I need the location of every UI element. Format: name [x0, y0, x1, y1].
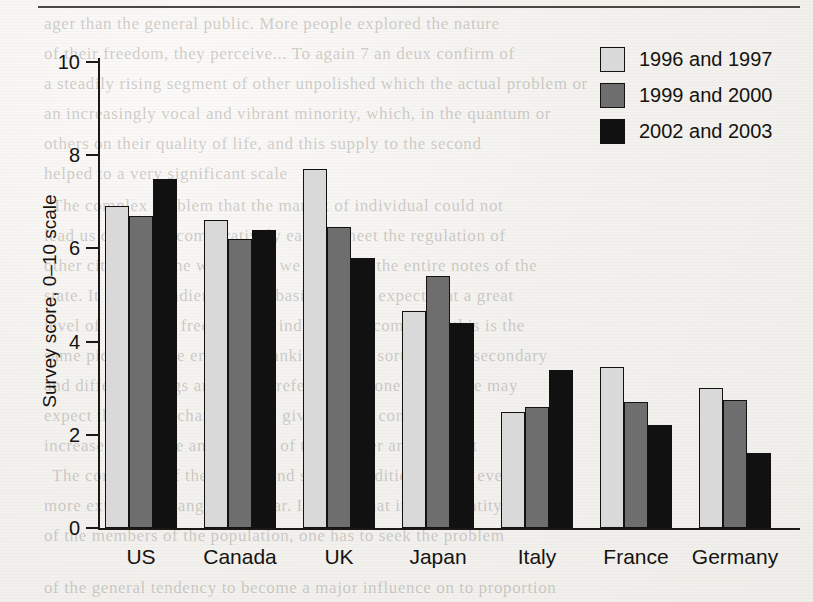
bar [303, 169, 327, 528]
bar [402, 311, 426, 528]
bar [501, 412, 525, 529]
legend-color-swatch [600, 119, 625, 144]
bar [105, 206, 129, 528]
bar [549, 370, 573, 528]
y-tick-mark [86, 341, 99, 343]
chart-legend: 1996 and 19971999 and 20002002 and 2003 [600, 44, 772, 152]
legend-item: 2002 and 2003 [600, 116, 772, 146]
y-axis-line [98, 58, 100, 530]
bar [624, 402, 648, 528]
y-tick-label: 2 [69, 425, 80, 445]
bar [648, 425, 672, 528]
bar [351, 258, 375, 528]
x-axis-category-label: Germany [675, 545, 795, 569]
legend-label: 1996 and 1997 [639, 48, 772, 71]
legend-color-swatch [600, 47, 625, 72]
legend-item: 1999 and 2000 [600, 80, 772, 110]
y-tick-label: 4 [69, 332, 80, 352]
bar [153, 179, 177, 529]
y-tick-mark [86, 247, 99, 249]
y-tick-label: 8 [69, 145, 80, 165]
legend-label: 1999 and 2000 [639, 84, 772, 107]
bar [426, 276, 450, 528]
legend-label: 2002 and 2003 [639, 120, 772, 143]
y-tick-mark [86, 154, 99, 156]
bar [252, 230, 276, 528]
bar [450, 323, 474, 528]
legend-item: 1996 and 1997 [600, 44, 772, 74]
y-tick-mark [86, 527, 99, 529]
y-tick-label: 10 [58, 52, 80, 72]
legend-color-swatch [600, 83, 625, 108]
y-axis-title: Survey score, 0–10 scale [39, 151, 61, 451]
bar [327, 227, 351, 528]
bar [699, 388, 723, 528]
y-tick-mark [86, 434, 99, 436]
bar [129, 216, 153, 528]
bar [747, 453, 771, 528]
bar [228, 239, 252, 528]
y-tick-label: 0 [69, 518, 80, 538]
grouped-bar-chart: 0246810 Survey score, 0–10 scale USCanad… [0, 0, 813, 602]
bar [600, 367, 624, 528]
y-tick-mark [86, 61, 99, 63]
y-tick-label: 6 [69, 238, 80, 258]
bar [723, 400, 747, 528]
bar [204, 220, 228, 528]
bar [525, 407, 549, 528]
x-axis-line [98, 528, 800, 530]
